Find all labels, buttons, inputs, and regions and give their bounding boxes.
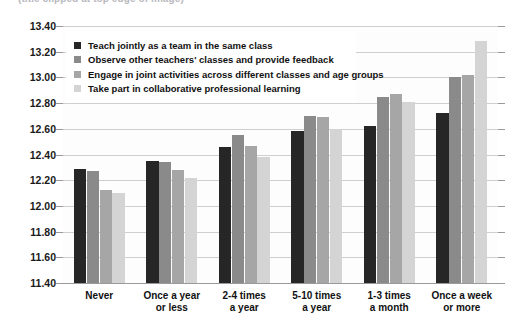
y-axis-tick-label: 11.80 — [10, 226, 56, 238]
chart-title-text: (title clipped at top edge of image) — [18, 0, 184, 4]
chart-legend: Teach jointly as a team in the same clas… — [66, 32, 356, 103]
x-axis-category-label-line: Once a year — [136, 290, 209, 302]
x-axis-category-label-line: a month — [353, 302, 426, 314]
bar — [172, 170, 184, 283]
bar — [317, 117, 329, 283]
bar — [219, 147, 231, 283]
bar — [112, 193, 124, 283]
x-axis-category-labels: NeverOnce a yearor less2-4 timesa year5-… — [63, 290, 498, 324]
y-axis-tick-label: 11.40 — [10, 277, 56, 289]
bar-group — [426, 26, 499, 283]
y-axis-tick-right — [498, 26, 505, 27]
bar — [159, 162, 171, 283]
bar — [146, 161, 158, 283]
y-axis-tick — [56, 103, 63, 104]
y-axis-tick-right — [498, 155, 505, 156]
y-axis-tick-right — [498, 77, 505, 78]
x-axis-category-label: 1-3 timesa month — [353, 290, 426, 314]
bar — [100, 190, 112, 283]
y-axis-tick-label: 11.60 — [10, 251, 56, 263]
x-axis-category-label-line: 1-3 times — [353, 290, 426, 302]
y-axis-tick-label: 12.20 — [10, 174, 56, 186]
legend-item-label: Observe other teachers' classes and prov… — [88, 54, 334, 65]
legend-swatch-icon — [74, 56, 81, 63]
x-axis-category-label-line: 2-4 times — [208, 290, 281, 302]
legend-item-label: Engage in joint activities across differ… — [88, 69, 384, 80]
chart-title-clipped: (title clipped at top edge of image) — [0, 0, 503, 7]
legend-swatch-icon — [74, 85, 81, 92]
y-axis-tick-right — [498, 103, 505, 104]
y-axis-tick-label: 12.80 — [10, 97, 56, 109]
y-axis-tick — [56, 257, 63, 258]
bar-group — [353, 26, 426, 283]
bar — [87, 171, 99, 283]
legend-item-label: Take part in collaborative professional … — [88, 83, 301, 94]
y-axis-tick-right — [498, 52, 505, 53]
bar — [377, 97, 389, 283]
legend-item[interactable]: Take part in collaborative professional … — [74, 82, 348, 97]
x-axis-category-label: Never — [63, 290, 136, 302]
bar — [185, 178, 197, 283]
bar — [257, 157, 269, 283]
legend-item-label: Teach jointly as a team in the same clas… — [88, 40, 273, 51]
y-axis-tick-label: 13.40 — [10, 20, 56, 32]
x-axis-category-label-line: Once a week — [426, 290, 499, 302]
y-axis-tick-right — [498, 180, 505, 181]
bar — [462, 75, 474, 283]
x-axis-category-label-line: a year — [208, 302, 281, 314]
bar — [364, 126, 376, 283]
y-axis-tick-label: 13.00 — [10, 71, 56, 83]
y-axis-tick-label: 12.60 — [10, 123, 56, 135]
x-axis-category-label: 2-4 timesa year — [208, 290, 281, 314]
bar — [245, 146, 257, 283]
bar — [475, 41, 487, 283]
bar — [74, 169, 86, 283]
bar — [402, 102, 414, 283]
legend-swatch-icon — [74, 42, 81, 49]
y-axis-tick — [56, 180, 63, 181]
legend-item[interactable]: Engage in joint activities across differ… — [74, 67, 348, 82]
x-axis-category-label-line: Never — [63, 290, 136, 302]
y-axis-tick — [56, 283, 63, 284]
legend-swatch-icon — [74, 71, 81, 78]
y-axis-tick-right — [498, 232, 505, 233]
y-axis-tick — [56, 129, 63, 130]
x-axis-category-label-line: 5-10 times — [281, 290, 354, 302]
x-axis-category-label-line: a year — [281, 302, 354, 314]
y-axis-tick — [56, 232, 63, 233]
bar — [449, 77, 461, 283]
y-axis-tick-right — [498, 206, 505, 207]
y-axis-tick-right — [498, 129, 505, 130]
y-axis-tick-right — [498, 283, 505, 284]
y-axis-tick-right — [498, 257, 505, 258]
bar — [232, 135, 244, 283]
bar — [390, 94, 402, 283]
y-axis-tick-label: 12.40 — [10, 149, 56, 161]
y-axis-tick — [56, 155, 63, 156]
bar — [291, 131, 303, 283]
x-axis-category-label: Once a yearor less — [136, 290, 209, 314]
x-axis-category-label-line: or less — [136, 302, 209, 314]
legend-item[interactable]: Observe other teachers' classes and prov… — [74, 53, 348, 68]
legend-item[interactable]: Teach jointly as a team in the same clas… — [74, 38, 348, 53]
bar — [330, 129, 342, 283]
y-axis-tick — [56, 77, 63, 78]
y-axis-tick — [56, 52, 63, 53]
x-axis-category-label: Once a weekor more — [426, 290, 499, 314]
x-axis-category-label: 5-10 timesa year — [281, 290, 354, 314]
gridline — [63, 283, 498, 284]
y-axis-tick-label: 12.00 — [10, 200, 56, 212]
y-axis-tick — [56, 206, 63, 207]
bar — [304, 116, 316, 283]
y-axis-tick-label: 13.20 — [10, 46, 56, 58]
bar — [436, 113, 448, 283]
x-axis-category-label-line: or more — [426, 302, 499, 314]
y-axis-tick — [56, 26, 63, 27]
y-axis-labels: 13.4013.2013.0012.8012.6012.4012.2012.00… — [0, 26, 56, 283]
